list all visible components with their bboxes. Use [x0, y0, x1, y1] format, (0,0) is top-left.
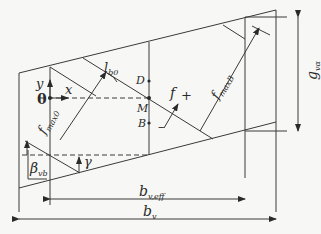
plus-sign: +	[181, 88, 192, 103]
point-m-label: M	[136, 102, 149, 115]
beta-vb-label: βvb	[29, 160, 48, 178]
f-max0-label: fmax0	[34, 106, 62, 139]
b-veff-label: bv,eff	[139, 183, 166, 201]
x-axis-label: x	[65, 82, 73, 97]
plate-geometry-diagram: y x 0 lb0 D M B f + – fmax0 fmaxB gvα βv…	[0, 0, 321, 234]
l-b0-label: lb0	[104, 60, 118, 77]
point-d-label: D	[135, 74, 145, 87]
f-label: f	[169, 85, 178, 101]
y-axis-label: y	[35, 76, 44, 91]
gamma-label: γ	[84, 154, 92, 169]
point-b-label: B	[137, 117, 146, 130]
b-v-label: bv	[143, 203, 157, 221]
origin-label: 0	[37, 91, 47, 107]
minus-sign: –	[158, 119, 165, 134]
g-va-label: gvα	[304, 61, 321, 80]
diagonal-1	[50, 67, 96, 96]
